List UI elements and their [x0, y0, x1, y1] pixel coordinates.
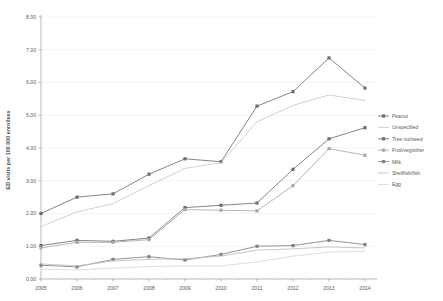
x-axis-tick-label: 2005 [35, 285, 46, 291]
y-axis-tick-labels: 0.001.002.003.004.005.006.007.008.00 [26, 14, 36, 282]
legend-marker-icon [382, 114, 385, 117]
data-point-marker [291, 244, 294, 247]
y-axis-tick-label: 5.00 [26, 112, 36, 118]
data-point-marker [363, 154, 366, 157]
y-axis-tick-label: 4.00 [26, 145, 36, 151]
series-line [41, 251, 365, 270]
y-axis-title: ED visits per 100 000 enrollees [5, 111, 11, 190]
x-axis-tick-label: 2013 [323, 285, 334, 291]
y-axis-tick-label: 8.00 [26, 14, 36, 20]
data-point-marker [183, 157, 186, 160]
x-axis-ticks [41, 279, 365, 282]
series-line [41, 247, 365, 266]
legend-item-peanut[interactable]: Peanut [378, 113, 408, 119]
legend-item-shellfish-fish[interactable]: Shellfish/fish [378, 170, 420, 176]
data-point-marker [75, 241, 78, 244]
legend-item-label: Fruit/veg/other [392, 147, 425, 153]
y-axis-ticks [39, 17, 42, 279]
y-axis-tick-label: 3.00 [26, 178, 36, 184]
legend-item-label: Milk [392, 159, 401, 165]
data-series-group [39, 56, 366, 269]
series-shellfish-fish [41, 247, 365, 266]
data-point-marker [75, 196, 78, 199]
data-point-marker [147, 255, 150, 258]
data-point-marker [255, 245, 258, 248]
legend-item-label: Tree nut/seed [392, 136, 423, 142]
y-axis-tick-label: 6.00 [26, 79, 36, 85]
series-line [41, 128, 365, 246]
data-point-marker [219, 209, 222, 212]
legend-item-label: Egg [392, 181, 401, 187]
data-point-marker [327, 147, 330, 150]
legend-item-label: Unspecified [392, 124, 418, 130]
data-point-marker [39, 246, 42, 249]
data-point-marker [327, 137, 330, 140]
series-tree-nut-seed [39, 126, 366, 247]
data-point-marker [111, 192, 114, 195]
x-axis-tick-label: 2008 [143, 285, 154, 291]
y-axis-tick-label: 7.00 [26, 47, 36, 53]
data-point-marker [183, 208, 186, 211]
data-point-marker [291, 90, 294, 93]
x-axis-tick-label: 2011 [252, 285, 263, 291]
legend-marker-icon [382, 137, 385, 140]
series-egg [41, 251, 365, 270]
x-axis-tick-label: 2012 [287, 285, 298, 291]
series-line [41, 149, 365, 248]
legend-item-label: Peanut [392, 113, 408, 119]
x-axis-tick-label: 2014 [359, 285, 370, 291]
data-point-marker [291, 184, 294, 187]
legend-marker-icon [382, 149, 385, 152]
data-point-marker [219, 204, 222, 207]
data-point-marker [363, 86, 366, 89]
x-axis-tick-labels: 2005200620072008200920102011201220132014 [35, 285, 370, 291]
y-axis-tick-label: 1.00 [26, 243, 36, 249]
series-line [41, 58, 365, 214]
data-point-marker [255, 201, 258, 204]
legend-item-label: Shellfish/fish [392, 170, 420, 176]
data-point-marker [147, 238, 150, 241]
data-point-marker [255, 209, 258, 212]
data-point-marker [363, 243, 366, 246]
data-point-marker [363, 126, 366, 129]
chart-container: 0.001.002.003.004.005.006.007.008.00 200… [0, 0, 443, 301]
legend-item-milk[interactable]: Milk [378, 159, 401, 165]
x-axis-tick-label: 2006 [71, 285, 82, 291]
data-point-marker [111, 241, 114, 244]
y-axis-tick-label: 2.00 [26, 210, 36, 216]
data-point-marker [39, 212, 42, 215]
data-point-marker [327, 239, 330, 242]
legend-item-tree-nut-seed[interactable]: Tree nut/seed [378, 136, 423, 142]
gridlines-group [41, 17, 377, 246]
y-axis-tick-label: 0.00 [26, 276, 36, 282]
x-axis-tick-label: 2010 [215, 285, 226, 291]
data-point-marker [255, 104, 258, 107]
legend-marker-icon [382, 160, 385, 163]
chart-legend: PeanutUnspecifiedTree nut/seedFruit/veg/… [378, 113, 425, 187]
data-point-marker [327, 56, 330, 59]
legend-item-fruit-veg-other[interactable]: Fruit/veg/other [378, 147, 425, 153]
data-point-marker [147, 173, 150, 176]
data-point-marker [291, 168, 294, 171]
legend-item-unspecified[interactable]: Unspecified [378, 124, 418, 130]
legend-item-egg[interactable]: Egg [378, 181, 401, 187]
line-chart: 0.001.002.003.004.005.006.007.008.00 200… [0, 0, 443, 301]
x-axis-tick-label: 2007 [107, 285, 118, 291]
data-point-marker [111, 258, 114, 261]
x-axis-tick-label: 2009 [179, 285, 190, 291]
series-peanut [39, 56, 366, 215]
series-fruit-veg-other [39, 147, 366, 249]
